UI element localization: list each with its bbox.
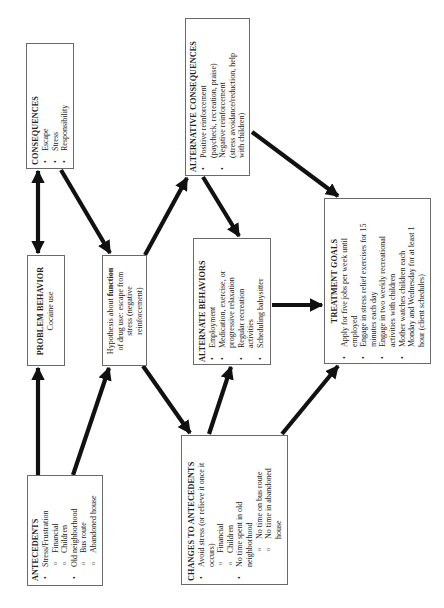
list-subitem: Abandoned house — [89, 481, 99, 581]
item-line: occurs) — [206, 543, 215, 567]
antecedents-box: ANTECEDENTS Stress/Frustration Financial… — [27, 475, 103, 586]
arrow-altconseq-altbehaviors — [203, 177, 239, 236]
list-item: Employment — [208, 242, 218, 362]
consequences-title: CONSEQUENCES — [31, 47, 41, 165]
item-line: Avoid stress (or relieve it once it — [196, 463, 205, 567]
changes-to-antecedents-list: Avoid stress (or relieve it once it occu… — [196, 439, 282, 581]
problem-behavior-text: Cocaine use — [46, 257, 56, 365]
alternative-consequences-list: Positive reinforcement (paycheck, recrea… — [199, 22, 247, 172]
item-line: Apply for five jobs per week until — [339, 238, 348, 347]
item-line: with children) — [237, 113, 246, 158]
item-line: activities — [247, 319, 256, 348]
item-line: neighborhood — [244, 523, 253, 567]
alternative-consequences-title: ALTERNATIVE CONSEQUENCES — [189, 22, 199, 172]
item-line: Regular recreation — [237, 288, 246, 347]
list-item: Mother watches children each Monday and … — [397, 201, 426, 361]
item-line: employed — [349, 315, 358, 347]
list-item: Escape — [41, 47, 51, 165]
list-item: Responsibility — [60, 47, 70, 165]
arrow-altconseq-goals — [252, 132, 338, 196]
hypothesis-line-3: stress (negative — [125, 257, 135, 365]
item-line: No time spent in old — [235, 502, 244, 567]
consequences-box: CONSEQUENCES Escape Stress Responsibilit… — [26, 43, 74, 169]
hypothesis-text: Hypothesis about — [105, 296, 114, 354]
item-line: Monday and Wednesday for at least 1 — [406, 226, 415, 347]
item-line: Children — [225, 525, 234, 553]
list-item: Scheduling babysitter — [256, 242, 266, 362]
list-item: Stress — [50, 47, 60, 165]
list-subitem: Financial — [216, 439, 226, 581]
hypothesis-line-4: reinforcement) — [134, 257, 144, 365]
list-subitem: Bus route — [80, 481, 90, 581]
item-line: Negative reinforcement — [218, 82, 227, 158]
changes-to-antecedents-title: CHANGES TO ANTECEDENTS — [186, 439, 196, 581]
treatment-goals-title: TREATMENT GOALS — [329, 201, 339, 361]
changes-to-antecedents-box: CHANGES TO ANTECEDENTS Avoid stress (or … — [181, 435, 288, 585]
problem-behavior-box: PROBLEM BEHAVIOR Cocaine use — [27, 255, 65, 366]
item-line: Engage in two weekly recreational — [378, 236, 387, 347]
arrow-hypothesis-altconseq — [145, 178, 187, 255]
problem-behavior-title: PROBLEM BEHAVIOR — [36, 257, 46, 365]
list-item: Regular recreation activities — [237, 242, 256, 362]
arrow-consequences-hypothesis — [61, 170, 110, 253]
item-line: minutes each day — [368, 291, 377, 347]
list-item: No time spent in old neighborhood — [235, 439, 254, 581]
item-line: house — [273, 520, 282, 539]
antecedents-title: ANTECEDENTS — [31, 481, 41, 581]
item-line: activities with children — [387, 274, 396, 347]
list-subitem: Children — [225, 439, 235, 581]
consequences-list: Escape Stress Responsibility — [41, 47, 70, 165]
item-line: (stress avoidance/reduction, help — [227, 53, 236, 158]
hypothesis-line-2: of drug use: escape from — [115, 257, 125, 365]
list-item: Engage in two weekly recreational activi… — [378, 201, 397, 361]
list-item: Medication, exercise, or progressive rel… — [218, 242, 237, 362]
list-item: Engage in stress relief exercises for 15… — [359, 201, 378, 361]
item-line: (paycheck, recreation, praise) — [208, 63, 217, 158]
list-subitem: No time in abandoned house — [263, 439, 282, 581]
list-item: Avoid stress (or relieve it once it occu… — [196, 439, 215, 581]
treatment-goals-box: TREATMENT GOALS Apply for five jobs per … — [324, 198, 431, 364]
hypothesis-box: Hypothesis about function of drug use: e… — [102, 255, 147, 366]
alternate-behaviors-list: Employment Medication, exercise, or prog… — [208, 242, 266, 362]
arrow-changes-goals — [282, 366, 338, 434]
list-item: Positive reinforcement (paycheck, recrea… — [199, 22, 218, 172]
hypothesis-emphasis: function — [105, 267, 114, 295]
alternate-behaviors-box: ALTERNATE BEHAVIORS Employment Medicatio… — [193, 238, 271, 365]
item-line: No time in abandoned — [263, 468, 272, 539]
item-line: No time on bus route — [254, 471, 263, 539]
list-item: Stress/Frustration — [41, 481, 51, 581]
list-subitem: No time on bus route — [254, 439, 264, 581]
list-item: Negative reinforcement (stress avoidance… — [218, 22, 247, 172]
hypothesis-line-1: Hypothesis about function — [105, 257, 115, 365]
item-line: Employment — [208, 306, 217, 347]
treatment-goals-list: Apply for five jobs per week until emplo… — [339, 201, 425, 361]
item-line: progressive relaxation — [227, 277, 236, 348]
list-subitem: Children — [60, 481, 70, 581]
arrow-antecedents-hypothesis — [73, 368, 109, 475]
list-item: Old neighborhood — [70, 481, 80, 581]
item-line: Financial — [216, 523, 225, 553]
item-line: Engage in stress relief exercises for 15 — [359, 223, 368, 347]
item-line: Positive reinforcement — [199, 85, 208, 158]
arrow-changes-altbehaviors — [209, 367, 231, 434]
list-item: Apply for five jobs per week until emplo… — [339, 201, 358, 361]
item-line: Mother watches children each — [397, 251, 406, 347]
list-subitem: Financial — [51, 481, 61, 581]
item-line: Medication, exercise, or — [218, 270, 227, 347]
alternative-consequences-box: ALTERNATIVE CONSEQUENCES Positive reinfo… — [185, 18, 250, 176]
item-line: Scheduling babysitter — [256, 278, 265, 348]
alternate-behaviors-title: ALTERNATE BEHAVIORS — [198, 242, 208, 362]
arrow-hypothesis-changes — [143, 366, 190, 433]
item-line: hour (client schedules) — [416, 274, 425, 347]
antecedents-list: Stress/Frustration Financial Children Ol… — [41, 481, 99, 581]
